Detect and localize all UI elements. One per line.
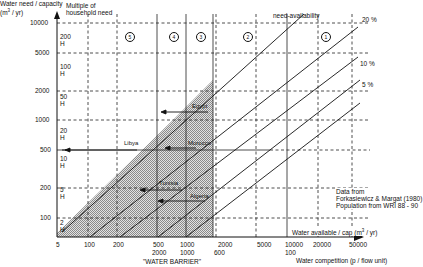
source-line2: Forkasiewicz & Margat (1980) [336, 195, 422, 202]
y2-tick: 50 H [60, 93, 67, 107]
x2-tick: 1000 [180, 249, 194, 256]
y2-tick: 10 H [60, 155, 67, 169]
x-tick: 10000 [285, 241, 303, 248]
x-tick: 200 [113, 241, 124, 248]
source-line1: Data from [336, 188, 422, 195]
x2-tick: 2000 [152, 249, 166, 256]
x-tick: 1000 [180, 241, 194, 248]
country-algeria: Algeria [190, 193, 209, 199]
zone-marker-1: 1 [321, 32, 331, 42]
y-tick: 100 [40, 214, 51, 221]
source-note: Data from Forkasiewicz & Margat (1980) P… [336, 188, 422, 209]
y-tick: 10000 [30, 19, 48, 26]
y2-tick: 100 H [60, 63, 71, 77]
x-tick: 20000 [313, 241, 331, 248]
zone-marker-5: 5 [125, 32, 135, 42]
x2-axis-label: Water competition (p / flow unit) [296, 257, 387, 264]
y-tick: 1000 [35, 116, 49, 123]
x-tick: 5 [56, 241, 60, 248]
country-egypt: Egypt [192, 103, 207, 109]
country-libya: Libya [124, 140, 138, 146]
country-tunisia: Tunisia [159, 180, 178, 186]
pct-10-label: 10 % [360, 60, 375, 67]
y2-label-line1: Multiple of [66, 2, 112, 9]
need-availability-label: need-availability [273, 12, 320, 19]
x-axis-label: Water available / cap (m3 / yr) [292, 228, 377, 236]
source-line3: Population from WRI 88 - 90 [336, 202, 422, 209]
pct-20-label: 20 % [362, 16, 377, 23]
zone-marker-2: 2 [243, 32, 253, 42]
x2-tick: 600 [214, 249, 225, 256]
x-tick: 100 [84, 241, 95, 248]
country-morocco: Morocco [188, 140, 211, 146]
x2-tick: 100 [285, 249, 296, 256]
y-axis-label-line1: Water need / capacity [0, 0, 63, 7]
pct-5-label: 5 % [362, 81, 373, 88]
y-tick: 500 [40, 146, 51, 153]
y2-axis-label: Multiple of household need [66, 2, 112, 16]
zone-marker-4: 4 [169, 32, 179, 42]
water-barrier-label: "WATER BARRIER" [143, 258, 201, 265]
y-axis-label-line2: (m3 / yr) [0, 7, 63, 16]
y-tick: 2000 [35, 87, 49, 94]
x-tick: 5000 [257, 241, 271, 248]
y-tick: 5000 [35, 49, 49, 56]
y2-tick: 5 H [60, 186, 65, 200]
y-axis-label: Water need / capacity (m3 / yr) [0, 0, 63, 16]
zone-marker-3: 3 [196, 32, 206, 42]
y-tick: 200 [40, 184, 51, 191]
y2-tick: 20 H [60, 127, 67, 141]
y2-tick: 2 H [60, 219, 65, 233]
x-tick: 500 [153, 241, 164, 248]
x-tick: 2000 [218, 241, 232, 248]
y2-label-line2: household need [66, 9, 112, 16]
y2-tick: 200 H [60, 33, 71, 47]
x-tick: 50000 [349, 241, 367, 248]
